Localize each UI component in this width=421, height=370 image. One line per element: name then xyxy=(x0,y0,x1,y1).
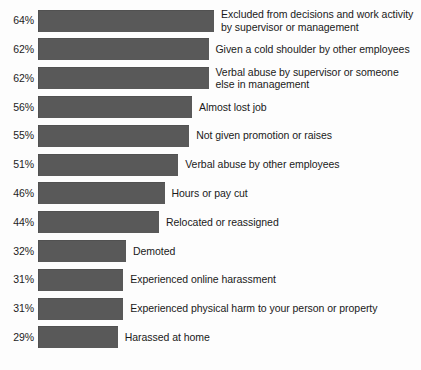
bar-track xyxy=(38,298,123,320)
bar-value-label: 62% xyxy=(0,73,34,84)
bar-category-label: Experienced online harassment xyxy=(130,273,421,286)
bar-row: 56%Almost lost job xyxy=(0,92,421,121)
bar-track xyxy=(38,38,209,60)
bar-category-label: Not given promotion or raises xyxy=(196,129,421,142)
bar-row: 62%Given a cold shoulder by other employ… xyxy=(0,35,421,64)
bar-value-label: 29% xyxy=(0,332,34,343)
bar xyxy=(38,298,123,320)
bar-row: 46%Hours or pay cut xyxy=(0,179,421,208)
bar-value-label: 56% xyxy=(0,102,34,113)
bar-row: 31%Experienced online harassment xyxy=(0,265,421,294)
bar-category-label: Almost lost job xyxy=(199,101,421,114)
bar-value-label: 32% xyxy=(0,246,34,257)
bar-track xyxy=(38,326,118,348)
bar-row: 29%Harassed at home xyxy=(0,323,421,352)
bar xyxy=(38,211,159,233)
bar xyxy=(38,125,189,147)
bar-value-label: 55% xyxy=(0,130,34,141)
bar-value-label: 31% xyxy=(0,303,34,314)
bar-row: 51%Verbal abuse by other employees xyxy=(0,150,421,179)
bar-row: 55%Not given promotion or raises xyxy=(0,121,421,150)
bar-category-label: Experienced physical harm to your person… xyxy=(130,302,421,315)
bar-row: 62%Verbal abuse by supervisor or someone… xyxy=(0,64,421,93)
bar-value-label: 64% xyxy=(0,15,34,26)
bar-track xyxy=(38,96,192,118)
bar-category-label: Relocated or reassigned xyxy=(166,216,421,229)
bar xyxy=(38,67,209,89)
bar xyxy=(38,10,214,32)
bar-row: 44%Relocated or reassigned xyxy=(0,208,421,237)
bar xyxy=(38,326,118,348)
bar-value-label: 31% xyxy=(0,274,34,285)
bar xyxy=(38,96,192,118)
bar-row: 32%Demoted xyxy=(0,236,421,265)
bar-track xyxy=(38,125,189,147)
bar-category-label: Given a cold shoulder by other employees xyxy=(216,43,421,56)
bar-track xyxy=(38,211,159,233)
bar-track xyxy=(38,10,214,32)
bar xyxy=(38,154,178,176)
bar-value-label: 51% xyxy=(0,159,34,170)
bar-category-label: Verbal abuse by supervisor or someone el… xyxy=(216,66,421,91)
bar-category-label: Demoted xyxy=(133,245,421,258)
bar-track xyxy=(38,182,165,204)
bar xyxy=(38,182,165,204)
bar-track xyxy=(38,67,209,89)
bar-category-label: Excluded from decisions and work activit… xyxy=(221,8,421,33)
bar xyxy=(38,269,123,291)
horizontal-bar-chart: 64%Excluded from decisions and work acti… xyxy=(0,0,421,370)
bar-value-label: 62% xyxy=(0,44,34,55)
bar-track xyxy=(38,240,126,262)
bar-row: 64%Excluded from decisions and work acti… xyxy=(0,6,421,35)
bar-track xyxy=(38,154,178,176)
bar-category-label: Hours or pay cut xyxy=(172,187,421,200)
bar-track xyxy=(38,269,123,291)
bar-value-label: 44% xyxy=(0,217,34,228)
bar-category-label: Verbal abuse by other employees xyxy=(185,158,421,171)
bar-row: 31%Experienced physical harm to your per… xyxy=(0,294,421,323)
bar xyxy=(38,240,126,262)
bar-value-label: 46% xyxy=(0,188,34,199)
bar xyxy=(38,38,209,60)
bar-category-label: Harassed at home xyxy=(125,331,421,344)
